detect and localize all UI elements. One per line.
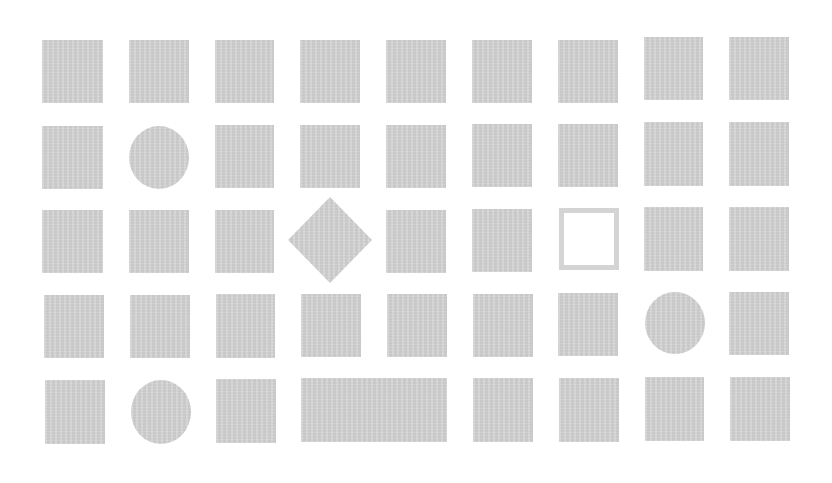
square-shape	[216, 294, 275, 358]
square-shape	[472, 209, 532, 272]
square-shape	[130, 295, 190, 358]
diamond-shape	[288, 197, 372, 283]
shape-grid-board	[0, 0, 832, 483]
square-shape	[386, 125, 446, 188]
square-shape	[387, 294, 447, 357]
square-shape	[644, 37, 703, 100]
square-shape	[558, 124, 618, 187]
square-shape	[301, 294, 361, 357]
square-shape	[386, 40, 446, 103]
hollow-square-shape	[559, 208, 619, 270]
square-shape	[216, 379, 276, 443]
square-shape	[730, 377, 790, 441]
square-shape	[215, 210, 274, 273]
square-shape	[558, 293, 618, 356]
square-shape	[45, 380, 105, 444]
square-shape	[472, 124, 532, 187]
square-shape	[729, 37, 789, 100]
square-shape	[215, 125, 274, 188]
square-shape	[42, 40, 103, 103]
square-shape	[44, 295, 104, 358]
circle-shape	[129, 126, 189, 189]
square-shape	[473, 294, 533, 357]
circle-shape	[131, 380, 191, 444]
square-shape	[300, 40, 360, 103]
square-shape	[129, 210, 189, 273]
square-shape	[645, 377, 704, 441]
square-shape	[644, 122, 703, 186]
square-shape	[129, 40, 189, 103]
square-shape	[386, 210, 446, 273]
square-shape	[558, 40, 618, 103]
square-shape	[729, 122, 789, 186]
square-shape	[473, 378, 533, 442]
square-shape	[729, 292, 789, 355]
square-shape	[729, 207, 789, 271]
square-shape	[42, 210, 103, 273]
square-shape	[215, 40, 274, 103]
square-shape	[644, 207, 703, 271]
square-shape	[42, 126, 103, 189]
circle-shape	[645, 292, 705, 354]
square-shape	[559, 378, 619, 442]
wide-rectangle-shape	[301, 378, 447, 442]
square-shape	[300, 125, 360, 188]
square-shape	[472, 40, 532, 103]
